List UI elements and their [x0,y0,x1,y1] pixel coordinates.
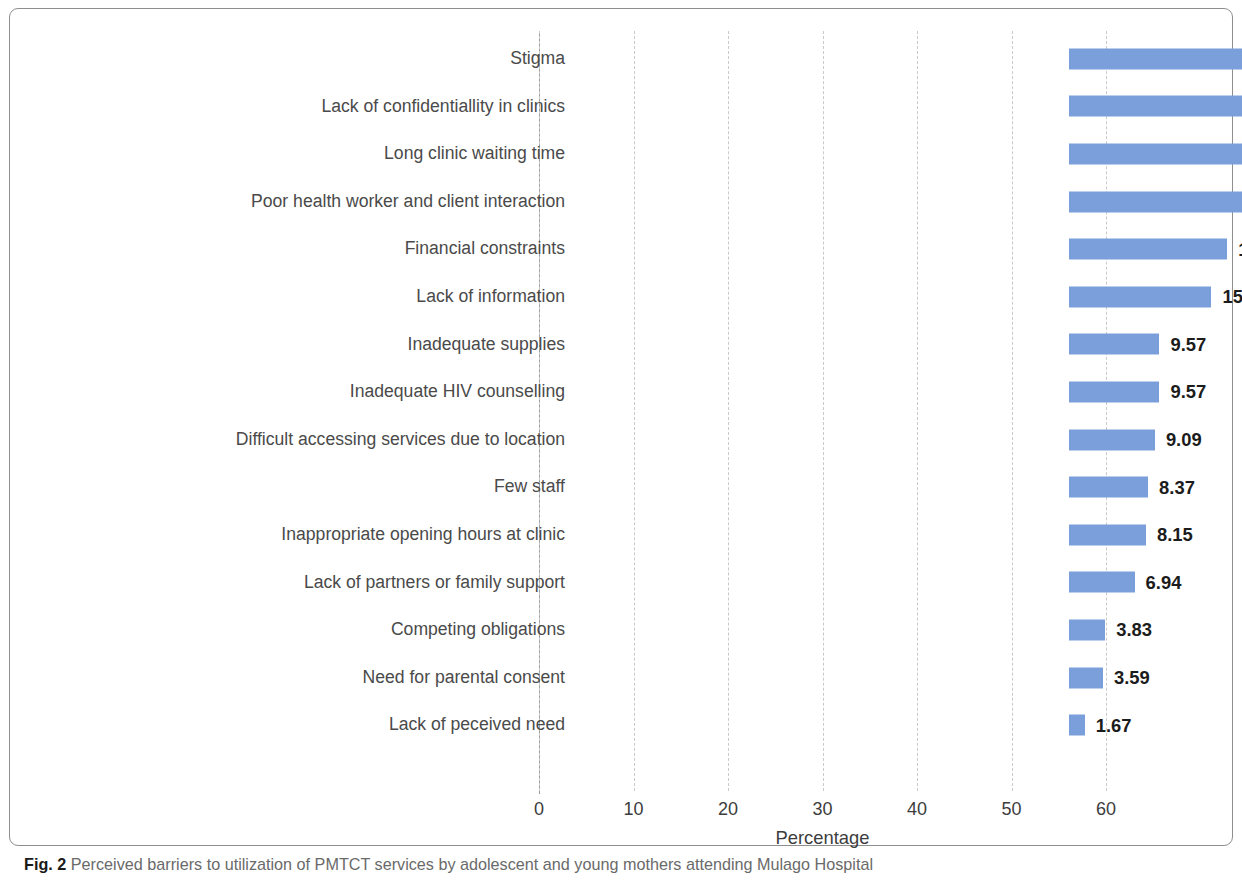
bar [1069,667,1103,688]
bar-with-value: 15.07 [1069,286,1242,307]
bar-with-value: 1.67 [1069,715,1132,736]
bar-row: Few staff8.37 [539,463,1106,511]
x-axis-tick-labels: 0102030405060 [539,799,1106,825]
figure-caption-text: Perceived barriers to utilization of PMT… [71,855,873,873]
bar-value-label: 6.94 [1146,571,1182,593]
x-axis-tick-60: 60 [1096,799,1116,820]
bar-chart-plot-area: Stigma56.7Lack of confidentiallity in cl… [539,31,1106,791]
bar-with-value: 18.9 [1069,191,1242,212]
category-label: Lack of confidentiallity in clinics [45,83,565,131]
bar-row: Need for parental consent3.59 [539,654,1106,702]
bar [1069,572,1135,593]
category-label: Inadequate HIV counselling [45,368,565,416]
bar-row: Inappropriate opening hours at clinic8.1… [539,511,1106,559]
category-label: Need for parental consent [45,654,565,702]
category-label: Few staff [45,463,565,511]
bar-value-label: 8.15 [1157,524,1193,546]
bar-row: Stigma56.7 [539,35,1106,83]
bar-row: Lack of peceived need1.67 [539,701,1106,749]
category-label: Lack of partners or family support [45,559,565,607]
bar-with-value: 56.7 [1069,48,1242,69]
category-label: Competing obligations [45,606,565,654]
bar-value-label: 3.59 [1114,667,1150,689]
bar-value-label: 9.57 [1170,333,1206,355]
bar-row: Financial constraints16.75 [539,225,1106,273]
bar [1069,286,1211,307]
category-label: Inadequate supplies [45,321,565,369]
category-label: Inappropriate opening hours at clinic [45,511,565,559]
bar-row: Poor health worker and client interactio… [539,178,1106,226]
figure-number: Fig. 2 [24,855,66,873]
x-axis-tick-50: 50 [1001,799,1021,820]
bar-row: Inadequate HIV counselling9.57 [539,368,1106,416]
category-label: Difficult accessing services due to loca… [45,416,565,464]
figure-caption: Fig. 2 Perceived barriers to utilization… [24,855,1224,874]
bar [1069,715,1085,736]
figure-page: Stigma56.7Lack of confidentiallity in cl… [0,0,1242,887]
category-label: Poor health worker and client interactio… [45,178,565,226]
bar-row: Lack of information15.07 [539,273,1106,321]
bar-value-label: 15.07 [1222,286,1242,308]
x-axis-tick-20: 20 [718,799,738,820]
bar [1069,524,1146,545]
bar-row: Inadequate supplies9.57 [539,321,1106,369]
bar-row: Lack of confidentiallity in clinics29.43 [539,83,1106,131]
bar [1069,143,1242,164]
bar-with-value: 8.37 [1069,477,1195,498]
x-axis-tick-0: 0 [534,799,544,820]
bar [1069,96,1242,117]
bar-value-label: 3.83 [1116,619,1152,641]
bar [1069,429,1155,450]
bar-value-label: 1.67 [1096,714,1132,736]
category-label: Long clinic waiting time [45,130,565,178]
bar-row: Competing obligations3.83 [539,606,1106,654]
bar-row: Lack of partners or family support6.94 [539,559,1106,607]
bar-with-value: 9.57 [1069,381,1206,402]
bar [1069,191,1242,212]
category-label: Financial constraints [45,225,565,273]
bar-value-label: 9.09 [1166,429,1202,451]
bar-with-value: 29.43 [1069,96,1242,117]
bar-with-value: 25.9 [1069,143,1242,164]
bar [1069,239,1227,260]
bar-value-label: 8.37 [1159,476,1195,498]
x-axis-tick-30: 30 [812,799,832,820]
bar-with-value: 3.59 [1069,667,1150,688]
category-label: Lack of peceived need [45,701,565,749]
x-axis-title: Percentage [539,827,1106,849]
category-label: Stigma [45,35,565,83]
bar-with-value: 3.83 [1069,619,1152,640]
bar-row: Difficult accessing services due to loca… [539,416,1106,464]
bar [1069,334,1159,355]
category-label: Lack of information [45,273,565,321]
figure-frame: Stigma56.7Lack of confidentiallity in cl… [9,8,1233,846]
bar-row: Long clinic waiting time25.9 [539,130,1106,178]
x-axis-tick-10: 10 [623,799,643,820]
x-axis-tick-40: 40 [907,799,927,820]
bar-value-label: 9.57 [1170,381,1206,403]
bar [1069,477,1148,498]
bar [1069,619,1105,640]
bar-value-label: 16.75 [1238,238,1242,260]
bar-with-value: 8.15 [1069,524,1193,545]
bar-with-value: 16.75 [1069,239,1242,260]
bar [1069,48,1242,69]
bar-with-value: 6.94 [1069,572,1181,593]
bar-with-value: 9.09 [1069,429,1202,450]
bar-with-value: 9.57 [1069,334,1206,355]
bar [1069,381,1159,402]
